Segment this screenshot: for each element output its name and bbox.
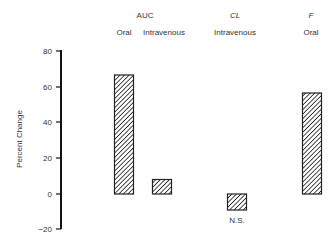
tick-label-80: 80	[43, 47, 52, 56]
bar-oral-f	[303, 93, 322, 194]
group-header-auc: AUC	[137, 11, 154, 20]
category-label-oral-f: Oral	[303, 28, 318, 37]
tick-label-60: 60	[43, 83, 52, 92]
y-axis-label: Percent Change	[15, 110, 24, 168]
bar-oral-auc	[115, 75, 134, 194]
tick-label-minus-20: −20	[38, 225, 52, 234]
tick-label-40: 40	[43, 118, 52, 127]
ns-annotation: N.S.	[229, 216, 245, 225]
bar-iv-cl	[228, 194, 247, 210]
group-header-cl: CL	[230, 11, 240, 20]
category-label-iv-cl: Intravenous	[214, 28, 256, 37]
category-label-iv-auc: Intravenous	[143, 28, 185, 37]
bar-chart: AUC CL F Oral Intravenous Intravenous Or…	[0, 0, 335, 235]
group-header-f: F	[309, 11, 315, 20]
tick-label-0: 0	[48, 190, 53, 199]
tick-label-20: 20	[43, 154, 52, 163]
bar-iv-auc	[153, 180, 172, 195]
category-label-oral-auc: Oral	[116, 28, 131, 37]
